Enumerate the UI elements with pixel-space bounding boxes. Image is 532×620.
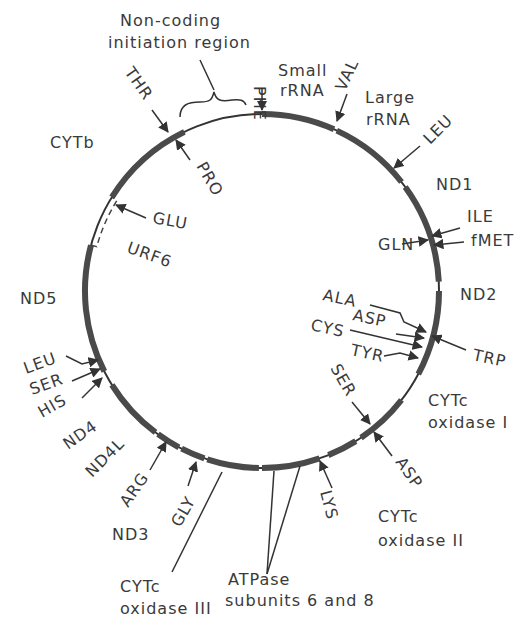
trna-phe: PHE (250, 86, 269, 121)
atpase-label-group: ATPase subunits 6 and 8 (225, 466, 375, 610)
gene-segment-cytb (112, 132, 184, 197)
gene-segment-atpase-subunits-6-and-8 (262, 458, 320, 468)
tyr-label: TYR (348, 340, 386, 366)
urf6-label: URF6 (125, 238, 175, 272)
trna-ser-1: SER (327, 361, 370, 425)
leu1-arrow (394, 146, 420, 168)
gene-segment-nd4 (112, 385, 156, 433)
atpase-leader-2 (267, 466, 300, 574)
val-arrow (337, 94, 347, 121)
trna-glu: GLU (116, 205, 189, 233)
pro-label: PRO (193, 159, 228, 200)
tyr-arrow (384, 353, 418, 358)
noncoding-region-label: Non-coding initiation region (108, 11, 251, 117)
trna-val: VAL (331, 56, 362, 121)
gene-segment-cytc-oxidase-ii (328, 441, 356, 455)
gene-segment-large-rrna (337, 131, 402, 182)
ile-arrow (432, 228, 460, 236)
asp2-label: ASP (392, 453, 427, 492)
large-rrna-label-line2: rRNA (366, 110, 411, 129)
thr-arrow (152, 110, 168, 132)
gene-segment-nd4l (158, 434, 179, 447)
atpase-leader-1 (267, 471, 274, 574)
gene-segment-cytc-oxidase-i (361, 400, 402, 438)
glu-label: GLU (151, 208, 189, 233)
gene-segment-nd3 (182, 449, 205, 459)
brace-icon (180, 92, 246, 117)
asp1-label: ASP (351, 305, 388, 331)
mitochondrial-genome-diagram: Non-coding initiation region PHE Small r… (0, 0, 532, 620)
gene-segments (85, 114, 439, 468)
arg-label: ARG (116, 469, 153, 511)
phe-label: PHE (250, 86, 269, 121)
his-arrow (82, 378, 102, 398)
nd4l-label: ND4L (81, 434, 128, 481)
ile-label: ILE (467, 207, 494, 226)
atpase-label-line1: ATPase (228, 570, 290, 589)
glu-arrow (116, 205, 146, 218)
gly-label: GLY (167, 493, 199, 530)
asp2-arrow (374, 432, 392, 456)
trna-gly: GLY (167, 462, 199, 530)
cox1-label-line2: oxidase I (428, 413, 508, 432)
trna-lys: LYS (316, 461, 342, 522)
lys-arrow (320, 461, 332, 488)
gene-segment-nd5 (85, 245, 104, 371)
nd5-label: ND5 (20, 289, 57, 308)
ser1-label: SER (327, 361, 361, 400)
cox3-label-line2: oxidase III (120, 599, 212, 618)
trna-trp: TRP (432, 336, 508, 371)
trna-asp-2: ASP (374, 432, 427, 492)
gene-segment-nd2 (418, 291, 439, 374)
gene-segment-small-rrna (262, 114, 334, 129)
gly-arrow (188, 462, 196, 486)
lys-label: LYS (316, 488, 342, 522)
gln-label: GLN (378, 235, 414, 254)
leu1-label: LEU (419, 111, 456, 148)
noncoding-label-line1: Non-coding (120, 11, 221, 30)
noncoding-leader (200, 60, 214, 90)
trp-label: TRP (470, 345, 508, 371)
atpase-label-line2: subunits 6 and 8 (225, 591, 375, 610)
cytb-label: CYTb (50, 133, 95, 152)
cys-label: CYS (309, 315, 346, 341)
cox1-label-line1: CYTc (428, 391, 469, 410)
trna-fmet: fMET (434, 231, 514, 250)
arg-arrow (150, 442, 166, 470)
trna-thr: THR (120, 63, 168, 132)
trna-pro: PRO (176, 140, 227, 199)
val-label: VAL (331, 56, 362, 94)
pro-arrow (176, 140, 190, 160)
asp1-arrow (396, 334, 424, 338)
fmet-label: fMET (471, 231, 514, 250)
trp-arrow (432, 336, 466, 350)
cox2-label-line2: oxidase II (378, 531, 464, 550)
nd1-label: ND1 (436, 175, 473, 194)
small-rrna-label-line1: Small (278, 61, 327, 80)
small-rrna-label-line2: rRNA (280, 81, 325, 100)
cox2-label-line1: CYTc (378, 507, 419, 526)
thr-label: THR (120, 63, 157, 104)
nd4-label: ND4 (59, 416, 101, 453)
nd2-label: ND2 (460, 285, 497, 304)
leu2-arrow (66, 356, 98, 364)
gene-segment-cytc-oxidase-iii (207, 459, 259, 468)
ala-label: ALA (321, 285, 358, 311)
cox3-label-line1: CYTc (120, 577, 161, 596)
trna-gln: GLN (378, 235, 428, 254)
ser2-arrow (72, 369, 100, 381)
noncoding-label-line2: initiation region (108, 33, 251, 52)
large-rrna-label-line1: Large (365, 88, 415, 107)
nd3-label: ND3 (112, 525, 149, 544)
ser1-arrow (352, 402, 370, 424)
gene-segment-urf6-dashed (91, 197, 117, 247)
fmet-arrow (434, 242, 464, 245)
